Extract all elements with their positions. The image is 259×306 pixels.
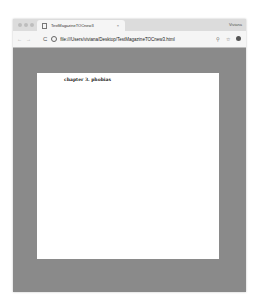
document-icon	[42, 23, 47, 29]
info-icon[interactable]	[51, 36, 57, 42]
back-icon[interactable]: ←	[17, 36, 22, 42]
maximize-window-button[interactable]	[30, 23, 34, 27]
extension-icon[interactable]	[236, 36, 241, 41]
toolbar-icons: ⚲ ☆	[216, 36, 241, 42]
tab-title: TestMagazineTOCnew3	[51, 23, 94, 28]
browser-window: TestMagazineTOCnew3 × Viviana ← → C file…	[13, 19, 246, 292]
close-window-button[interactable]	[18, 23, 22, 27]
profile-button[interactable]: Viviana	[229, 22, 242, 27]
chapter-heading: chapter 3. phobias	[64, 77, 111, 82]
page-canvas: chapter 3. phobias	[37, 73, 219, 259]
minimize-window-button[interactable]	[24, 23, 28, 27]
reload-icon[interactable]: C	[43, 36, 47, 42]
url-text[interactable]: file:///Users/viviana/Desktop/TestMagazi…	[60, 37, 174, 42]
tab-active[interactable]: TestMagazineTOCnew3 ×	[37, 20, 125, 31]
address-bar[interactable]: file:///Users/viviana/Desktop/TestMagazi…	[51, 36, 174, 42]
page-viewport: chapter 3. phobias	[13, 48, 246, 292]
browser-toolbar: ← → C file:///Users/viviana/Desktop/Test…	[13, 31, 246, 48]
zoom-icon[interactable]: ⚲	[216, 36, 220, 42]
tab-close-icon[interactable]: ×	[117, 23, 119, 28]
bookmark-star-icon[interactable]: ☆	[226, 36, 230, 42]
forward-icon[interactable]: →	[26, 36, 31, 42]
